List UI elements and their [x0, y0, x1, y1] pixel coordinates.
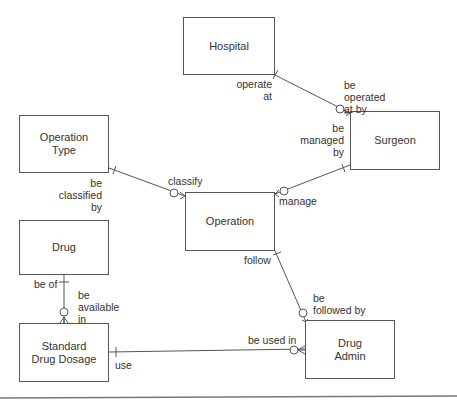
entity-hospital[interactable]: Hospital — [183, 17, 275, 75]
label-operate-at: operate at — [216, 78, 272, 102]
optional-circle-surgeon — [336, 105, 344, 113]
entity-operation[interactable]: Operation — [185, 192, 275, 251]
label-be-used-in: be used in — [248, 334, 296, 346]
label-be-classified-by: be classified by — [46, 177, 102, 213]
optional-circle-drugadmin-use — [290, 346, 298, 354]
label-be-of: be of — [34, 278, 57, 290]
label-be-followed-by: be followed by — [313, 292, 366, 316]
line-dosage-drugadmin — [109, 349, 305, 352]
bottom-divider — [0, 396, 457, 398]
optional-circle-operation-manage — [280, 187, 288, 195]
label-be-operated-at-by: be operated at by — [344, 79, 385, 115]
entity-drug-admin[interactable]: Drug Admin — [305, 320, 395, 379]
label-manage: manage — [279, 195, 317, 207]
optional-circle-drugadmin-follow — [299, 309, 307, 317]
optional-circle-dosage — [60, 308, 68, 316]
entity-surgeon[interactable]: Surgeon — [350, 111, 440, 170]
entity-operation-type[interactable]: Operation Type — [19, 115, 109, 173]
label-be-managed-by: be managed by — [290, 122, 344, 158]
label-follow: follow — [244, 254, 271, 266]
crowfoot-drugadmin-use — [298, 346, 305, 354]
optional-circle-operation-classify — [170, 189, 178, 197]
entity-standard-drug-dosage[interactable]: Standard Drug Dosage — [19, 323, 109, 382]
label-use: use — [115, 359, 132, 371]
entity-drug[interactable]: Drug — [19, 220, 109, 275]
label-be-available-in: be available in — [78, 289, 119, 325]
label-classify: classify — [168, 175, 202, 187]
